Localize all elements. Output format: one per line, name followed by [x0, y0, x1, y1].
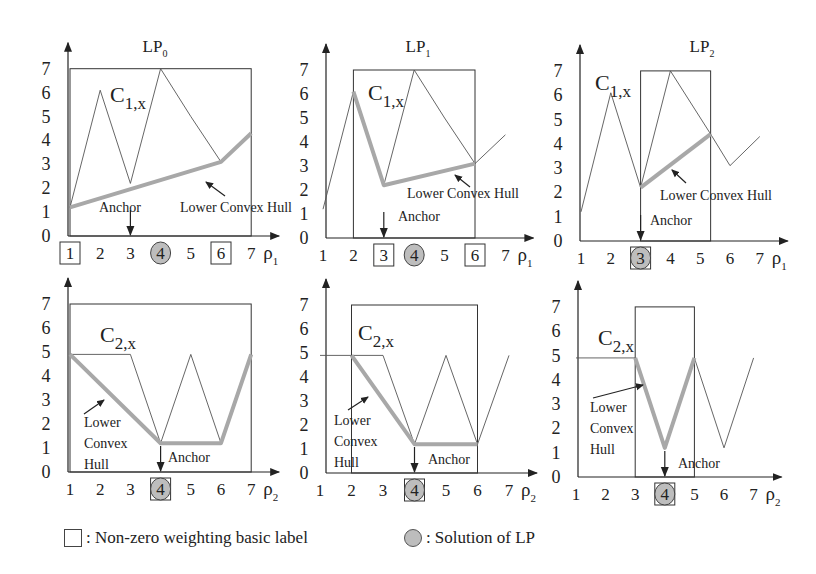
x-tick-label: 1: [572, 485, 581, 504]
y-tick-label: 5: [42, 342, 51, 362]
y-tick-label: 0: [300, 463, 309, 483]
x-axis-label: ρ2: [263, 478, 278, 503]
x-tick-label: 4: [666, 249, 675, 268]
y-tick-label: 1: [554, 207, 563, 227]
y-tick-label: 3: [554, 158, 563, 178]
y-tick-label: 7: [300, 295, 309, 315]
y-tick-label: 1: [42, 202, 51, 222]
x-tick-label: 5: [440, 246, 449, 265]
y-tick-label: 4: [300, 132, 309, 152]
x-tick-label: 2: [349, 246, 358, 265]
hull-label: Hull: [334, 455, 359, 470]
hull-label: Hull: [84, 457, 109, 472]
x-tick-label: 3: [636, 249, 645, 268]
cost-curve: [70, 69, 251, 208]
curve-label: C2,x: [598, 325, 634, 356]
x-tick-label: 5: [442, 481, 451, 500]
y-tick-label: 2: [42, 414, 51, 434]
y-tick-label: 6: [300, 319, 309, 339]
y-tick-label: 1: [300, 204, 309, 224]
panel-lp0_c2: 012345671234567ρ2C2,xAnchorLowerConvexHu…: [42, 278, 280, 503]
y-tick-label: 6: [42, 83, 51, 103]
hull-pointer-arrow: [672, 170, 686, 183]
curve-label: C1,x: [110, 82, 146, 113]
x-tick-label: 7: [505, 481, 514, 500]
y-tick-label: 2: [42, 178, 51, 198]
lower-convex-hull-line: [70, 133, 251, 207]
lower-convex-hull-line: [353, 92, 475, 186]
x-tick-label: 6: [720, 485, 729, 504]
x-tick-label: 3: [379, 481, 388, 500]
panel-lp0_c1: 012345671234567ρ1LP0C1,xAnchorLower Conv…: [42, 37, 293, 267]
y-tick-label: 3: [42, 390, 51, 410]
legend: : Non-zero weighting basic label : Solut…: [64, 527, 535, 549]
panel-lp2_c1: 012345671234567ρ1LP2C1,xAnchorLower Conv…: [554, 37, 788, 272]
y-tick-label: 2: [300, 415, 309, 435]
x-tick-label: 7: [247, 480, 256, 499]
x-tick-label: 2: [607, 249, 616, 268]
y-tick-label: 4: [552, 370, 561, 390]
legend-item-solution: : Solution of LP: [404, 528, 535, 548]
x-tick-label: 5: [187, 244, 196, 263]
anchor-label: Anchor: [99, 200, 141, 215]
x-tick-label: 1: [577, 249, 586, 268]
anchor-label: Anchor: [398, 209, 440, 224]
x-axis-label: ρ2: [766, 483, 781, 508]
anchor-label: Anchor: [650, 213, 692, 228]
y-tick-label: 3: [300, 156, 309, 176]
square-icon: [64, 529, 82, 547]
x-tick-label: 6: [217, 480, 226, 499]
x-tick-label: 2: [96, 244, 105, 263]
x-tick-label: 6: [726, 249, 735, 268]
x-tick-label: 6: [473, 481, 482, 500]
panel-lp1_c2: 012345671234567ρ2C2,xAnchorLowerConvexHu…: [300, 279, 538, 504]
x-tick-label: 4: [156, 480, 165, 499]
y-tick-label: 6: [554, 85, 563, 105]
x-tick-label: 3: [380, 246, 389, 265]
x-tick-label: 7: [749, 485, 758, 504]
y-tick-label: 6: [552, 321, 561, 341]
y-tick-label: 7: [42, 294, 51, 314]
x-tick-label: 6: [217, 244, 226, 263]
x-tick-label: 3: [126, 244, 135, 263]
hull-label: Convex: [84, 436, 128, 451]
y-tick-label: 3: [552, 394, 561, 414]
y-tick-label: 2: [554, 182, 563, 202]
x-axis-label: ρ1: [772, 247, 787, 272]
hull-pointer-arrow: [206, 182, 225, 196]
y-tick-label: 5: [42, 107, 51, 127]
x-tick-label: 4: [410, 246, 419, 265]
x-tick-label: 5: [187, 480, 196, 499]
legend-circle-text: : Solution of LP: [426, 528, 535, 548]
y-tick-label: 5: [554, 110, 563, 130]
panel-title: LP0: [143, 37, 168, 59]
x-tick-label: 5: [690, 485, 699, 504]
curve-label: C2,x: [358, 320, 394, 351]
curve-label: C1,x: [595, 70, 631, 101]
hull-label: Lower: [590, 400, 627, 415]
y-tick-label: 1: [42, 438, 51, 458]
hull-label: Convex: [590, 421, 634, 436]
panel-lp2_c2: 012345671234567ρ2C2,xAnchorLowerConvexHu…: [552, 281, 782, 508]
y-tick-label: 6: [42, 318, 51, 338]
x-tick-label: 3: [126, 480, 135, 499]
figure-canvas: 012345671234567ρ1LP0C1,xAnchorLower Conv…: [0, 0, 816, 574]
lower-convex-hull-line: [641, 134, 711, 187]
panel-lp1_c1: 012345671234567ρ1LP1C1,xAnchorLower Conv…: [300, 37, 534, 269]
y-tick-label: 2: [552, 418, 561, 438]
y-tick-label: 3: [42, 154, 51, 174]
x-tick-label: 2: [96, 480, 105, 499]
x-tick-label: 1: [66, 480, 75, 499]
y-tick-label: 7: [554, 61, 563, 81]
y-tick-label: 7: [552, 297, 561, 317]
y-tick-label: 4: [42, 366, 51, 386]
hull-label: Lower Convex Hull: [180, 200, 292, 215]
y-tick-label: 1: [300, 439, 309, 459]
panel-title: LP2: [690, 37, 715, 59]
lower-convex-hull-line: [635, 358, 694, 448]
y-tick-label: 0: [42, 226, 51, 246]
circle-icon: [404, 529, 422, 547]
x-tick-label: 4: [156, 244, 165, 263]
y-tick-label: 7: [300, 60, 309, 80]
y-tick-label: 5: [552, 346, 561, 366]
